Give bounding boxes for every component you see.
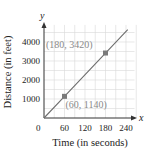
x-axis-variable: x: [138, 112, 144, 123]
y-tick-label: 4000: [22, 37, 41, 47]
x-tick-labels: 60120180240: [60, 123, 133, 133]
y-tick-label: 2000: [22, 75, 41, 85]
data-point-label: (180, 3420): [46, 39, 93, 51]
x-tick-label: 120: [78, 123, 92, 133]
data-point-marker: [62, 94, 67, 99]
y-tick-label: 3000: [22, 56, 41, 66]
y-axis-variable: y: [39, 10, 45, 21]
point-annotations: (60, 1140)(180, 3420): [46, 39, 107, 111]
data-point-label: (60, 1140): [66, 99, 107, 111]
origin-label: 0: [36, 123, 41, 133]
distance-time-chart: x y 0 Time (in seconds) Distance (in fee…: [0, 0, 154, 155]
y-axis-title: Distance (in feet): [2, 35, 14, 108]
data-point-marker: [103, 51, 108, 56]
x-tick-label: 240: [119, 123, 133, 133]
y-tick-labels: 1000200030004000: [22, 37, 41, 104]
x-tick-label: 180: [99, 123, 113, 133]
x-axis-title: Time (in seconds): [52, 137, 128, 149]
x-tick-label: 60: [60, 123, 70, 133]
y-axis-arrow-icon: [42, 22, 47, 28]
y-tick-label: 1000: [22, 94, 41, 104]
